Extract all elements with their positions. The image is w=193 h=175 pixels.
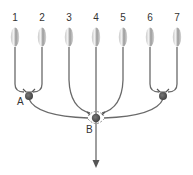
cell-3-icon	[65, 28, 73, 47]
node-c	[157, 89, 169, 100]
label-6: 6	[147, 12, 153, 23]
label-3: 3	[66, 12, 72, 23]
node-a-label: A	[17, 96, 24, 107]
label-5: 5	[120, 12, 126, 23]
node-a	[23, 89, 35, 100]
label-7: 7	[174, 12, 180, 23]
arrow-down-icon	[93, 160, 100, 168]
label-4: 4	[93, 12, 99, 23]
cell-6-icon	[146, 28, 154, 47]
cell-2-icon	[38, 28, 46, 47]
cell-1-icon	[11, 28, 19, 47]
node-b-label: B	[86, 124, 93, 135]
cell-5-icon	[119, 28, 127, 47]
cell-7-icon	[173, 28, 181, 47]
connections	[15, 47, 177, 160]
node-b-icon	[92, 114, 100, 122]
node-c-icon	[159, 92, 167, 100]
cell-4-icon	[92, 28, 100, 47]
label-2: 2	[39, 12, 45, 23]
node-a-icon	[25, 92, 33, 100]
label-1: 1	[12, 12, 18, 23]
convergence-diagram: 1 2 3 4 5 6 7 A	[0, 0, 193, 175]
cells	[11, 28, 181, 47]
